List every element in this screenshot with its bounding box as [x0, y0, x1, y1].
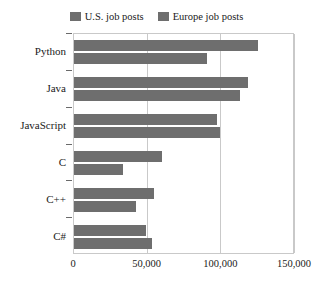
y-axis-label-c: C# [53, 230, 66, 242]
bar [74, 238, 152, 249]
legend-entry-us: U.S. job posts [70, 11, 144, 22]
bar-chart: U.S. job posts Europe job posts PythonJa… [0, 0, 313, 287]
gridline [294, 34, 295, 253]
legend-swatch-europe [158, 12, 169, 21]
y-axis-tick [66, 180, 72, 181]
chart-legend: U.S. job posts Europe job posts [0, 11, 313, 22]
bar [74, 77, 248, 88]
y-axis-label-python: Python [35, 45, 66, 57]
x-axis-label: 100,000 [203, 258, 237, 270]
y-axis-label-java: Java [46, 82, 66, 94]
x-axis-label: 50,000 [132, 258, 161, 270]
y-axis-tick [66, 217, 72, 218]
legend-swatch-us [70, 12, 81, 21]
x-axis-label: 0 [70, 258, 75, 270]
y-axis-tick [66, 144, 72, 145]
legend-label-europe: Europe job posts [173, 11, 244, 22]
y-axis-tick [66, 107, 72, 108]
bar [74, 53, 207, 64]
bar [74, 225, 146, 236]
y-axis-tick [66, 33, 72, 34]
bar [74, 40, 258, 51]
bar [74, 114, 217, 125]
x-axis-label: 150,000 [277, 258, 311, 270]
bar [74, 201, 136, 212]
gridline [147, 34, 148, 253]
plot-area [73, 33, 294, 254]
y-axis-label-c: C [59, 156, 66, 168]
bar [74, 127, 220, 138]
legend-label-us: U.S. job posts [85, 11, 144, 22]
bar [74, 164, 123, 175]
bar [74, 151, 162, 162]
legend-entry-europe: Europe job posts [158, 11, 244, 22]
bar [74, 90, 240, 101]
y-axis-label-c: C++ [46, 193, 66, 205]
bar [74, 188, 154, 199]
gridline [220, 34, 221, 253]
y-axis-tick [66, 70, 72, 71]
y-axis-label-javascript: JavaScript [20, 119, 66, 131]
